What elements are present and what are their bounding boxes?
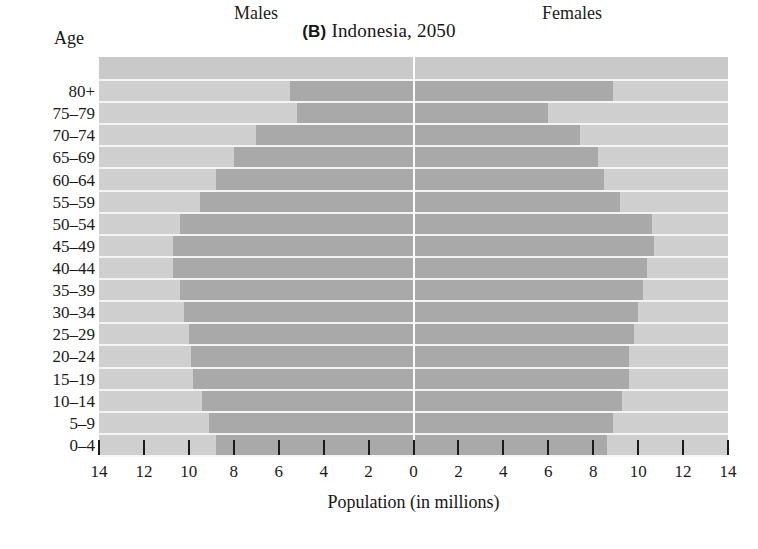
bar-females-30-34 (414, 302, 639, 322)
x-tick-label-9: 4 (483, 462, 523, 482)
x-tick-mark (98, 440, 100, 455)
x-tick-label-4: 6 (259, 462, 299, 482)
bar-males-20-24 (191, 346, 413, 366)
x-tick-label-2: 10 (169, 462, 209, 482)
y-tick-label-40-44: 40–44 (3, 260, 95, 277)
x-tick-label-7: 0 (394, 462, 434, 482)
bar-females-55-59 (414, 192, 621, 212)
x-tick-mark (278, 440, 280, 455)
y-tick-label-5-9: 5–9 (3, 415, 95, 432)
bar-females-80+ (414, 81, 614, 101)
bar-males-55-59 (200, 192, 413, 212)
bar-females-60-64 (414, 169, 605, 189)
x-tick-mark (727, 440, 729, 455)
y-tick-label-45-49: 45–49 (3, 238, 95, 255)
y-tick-label-75-79: 75–79 (3, 105, 95, 122)
x-axis-title: Population (in millions) (99, 492, 728, 513)
x-tick-label-0: 14 (79, 462, 119, 482)
y-tick-label-50-54: 50–54 (3, 216, 95, 233)
plot-area (99, 57, 728, 457)
bar-males-5-9 (209, 413, 413, 433)
y-tick-label-30-34: 30–34 (3, 304, 95, 321)
y-tick-label-20-24: 20–24 (3, 348, 95, 365)
bar-males-45-49 (173, 236, 413, 256)
bar-females-65-69 (414, 147, 598, 167)
bar-females-15-19 (414, 369, 630, 389)
y-tick-label-65-69: 65–69 (3, 149, 95, 166)
x-tick-label-13: 12 (663, 462, 703, 482)
bar-males-10-14 (202, 391, 413, 411)
y-tick-label-55-59: 55–59 (3, 194, 95, 211)
bar-females-35-39 (414, 280, 643, 300)
series-header-females: Females (415, 3, 729, 24)
bar-males-40-44 (173, 258, 413, 278)
bar-females-40-44 (414, 258, 648, 278)
y-tick-label-35-39: 35–39 (3, 282, 95, 299)
x-tick-mark (233, 440, 235, 455)
bar-males-60-64 (216, 169, 414, 189)
bar-females-5-9 (414, 413, 614, 433)
x-tick-mark (682, 440, 684, 455)
x-tick-label-10: 6 (528, 462, 568, 482)
bar-females-70-74 (414, 125, 580, 145)
bar-females-10-14 (414, 391, 623, 411)
panel-label: (B) (302, 22, 326, 41)
bar-males-15-19 (193, 369, 413, 389)
y-tick-label-15-19: 15–19 (3, 371, 95, 388)
center-axis-line (413, 57, 415, 457)
bar-males-0-4 (216, 435, 414, 455)
bar-males-35-39 (180, 280, 414, 300)
bar-males-50-54 (180, 214, 414, 234)
bar-females-0-4 (414, 435, 607, 455)
bar-females-50-54 (414, 214, 652, 234)
x-tick-label-5: 4 (304, 462, 344, 482)
y-tick-label-0-4: 0–4 (3, 437, 95, 454)
y-tick-label-10-14: 10–14 (3, 393, 95, 410)
x-tick-mark (368, 440, 370, 455)
x-tick-label-8: 2 (438, 462, 478, 482)
bar-females-20-24 (414, 346, 630, 366)
x-tick-mark (143, 440, 145, 455)
x-tick-label-11: 8 (573, 462, 613, 482)
series-header-males: Males (99, 3, 413, 24)
population-pyramid-figure: (B) Indonesia, 2050 Age 80+75–7970–7465–… (0, 0, 758, 549)
bar-females-75-79 (414, 103, 549, 123)
x-tick-mark (502, 440, 504, 455)
bar-males-70-74 (256, 125, 413, 145)
bar-males-30-34 (184, 302, 413, 322)
bar-males-65-69 (234, 147, 414, 167)
bar-males-75-79 (297, 103, 414, 123)
bar-males-25-29 (189, 324, 414, 344)
bar-females-25-29 (414, 324, 634, 344)
bar-males-80+ (290, 81, 414, 101)
x-tick-mark (547, 440, 549, 455)
x-tick-mark (188, 440, 190, 455)
x-tick-mark (592, 440, 594, 455)
x-tick-label-3: 8 (214, 462, 254, 482)
y-tick-label-80+: 80+ (3, 83, 95, 100)
y-tick-label-60-64: 60–64 (3, 172, 95, 189)
bar-females-45-49 (414, 236, 654, 256)
x-tick-label-12: 10 (618, 462, 658, 482)
x-tick-mark (413, 440, 415, 455)
x-tick-label-6: 2 (349, 462, 389, 482)
y-tick-label-70-74: 70–74 (3, 127, 95, 144)
x-tick-mark (323, 440, 325, 455)
x-tick-label-14: 14 (708, 462, 748, 482)
y-tick-label-25-29: 25–29 (3, 326, 95, 343)
x-tick-mark (637, 440, 639, 455)
x-tick-label-1: 12 (124, 462, 164, 482)
x-tick-mark (457, 440, 459, 455)
